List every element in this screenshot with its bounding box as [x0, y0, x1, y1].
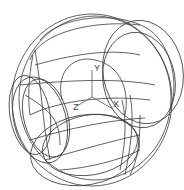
wireframe-viewport[interactable]: Y Z X	[0, 0, 184, 190]
axis-triad: Y Z X	[73, 63, 119, 112]
y-axis-label: Y	[94, 63, 100, 73]
z-axis-line	[77, 97, 92, 106]
x-axis-label: X	[113, 99, 119, 109]
z-axis-label: Z	[73, 102, 79, 112]
wireframe-model	[3, 14, 184, 190]
